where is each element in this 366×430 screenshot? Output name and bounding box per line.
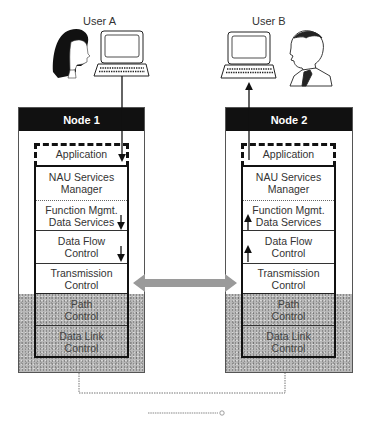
peer-double-arrow	[133, 274, 237, 292]
footnote-circle	[220, 411, 224, 415]
physical-link-line	[79, 373, 285, 393]
connections-overlay	[0, 0, 366, 430]
